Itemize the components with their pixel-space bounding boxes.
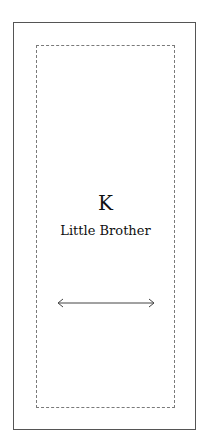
letter-label: K bbox=[0, 193, 211, 213]
title-label: Little Brother bbox=[0, 224, 211, 237]
double-arrow-icon bbox=[56, 297, 156, 309]
